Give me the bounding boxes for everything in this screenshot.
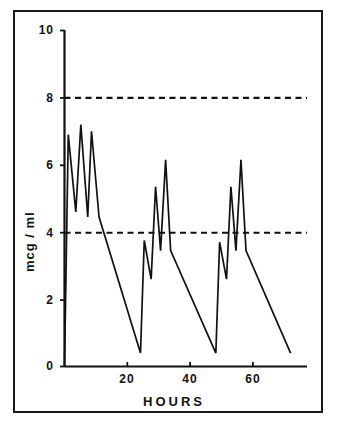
y-tick-label-10: 10 <box>28 23 54 37</box>
y-axis-title: mcg / ml <box>22 211 37 272</box>
y-tick-label-2: 2 <box>28 293 54 307</box>
data-series-line <box>65 125 291 367</box>
x-axis-title: HOURS <box>34 394 314 409</box>
x-tick-label-60: 60 <box>238 372 268 386</box>
x-tick-label-40: 40 <box>175 372 205 386</box>
y-tick-label-0: 0 <box>28 359 54 373</box>
y-tick-label-6: 6 <box>28 158 54 172</box>
y-tick-label-8: 8 <box>28 91 54 105</box>
x-tick-label-20: 20 <box>112 372 142 386</box>
figure-root: 10 8 6 4 2 0 20 40 60 HOURS mcg / ml <box>0 0 339 430</box>
